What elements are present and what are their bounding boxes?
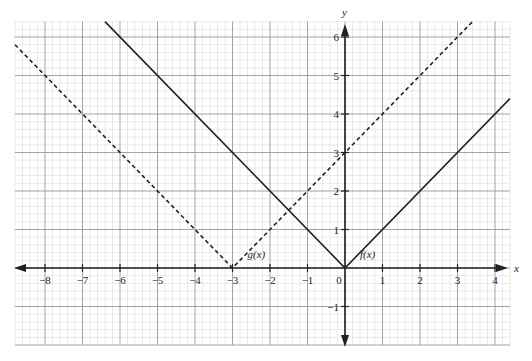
function-label: g(x) bbox=[248, 248, 266, 261]
function-label: f(x) bbox=[360, 248, 376, 261]
x-tick-label: −1 bbox=[302, 274, 314, 286]
y-tick-label: 1 bbox=[334, 224, 340, 236]
y-tick-label: −1 bbox=[327, 301, 339, 313]
y-tick-label: 6 bbox=[334, 31, 340, 43]
x-tick-label: −7 bbox=[77, 274, 89, 286]
tick-labels: −8−7−6−5−4−3−2−101234−1123456 bbox=[39, 31, 498, 313]
x-tick-label: 4 bbox=[492, 274, 498, 286]
y-tick-label: 5 bbox=[334, 70, 340, 82]
x-tick-label: 1 bbox=[380, 274, 386, 286]
y-tick-label: 4 bbox=[334, 108, 340, 120]
y-tick-label: 2 bbox=[334, 185, 340, 197]
x-tick-label: −8 bbox=[39, 274, 51, 286]
y-tick-label: 3 bbox=[334, 147, 340, 159]
x-tick-label: −5 bbox=[152, 274, 164, 286]
x-axis-label: x bbox=[513, 262, 519, 274]
x-tick-label: 3 bbox=[455, 274, 461, 286]
x-tick-label: −6 bbox=[114, 274, 126, 286]
x-tick-label: −4 bbox=[189, 274, 201, 286]
x-axis-arrow-left-icon bbox=[14, 264, 26, 272]
x-tick-label: 0 bbox=[336, 274, 342, 286]
x-tick-label: −3 bbox=[227, 274, 239, 286]
y-axis-label: y bbox=[341, 6, 347, 18]
y-axis-arrow-up-icon bbox=[341, 24, 349, 36]
x-tick-label: 2 bbox=[417, 274, 423, 286]
chart: −8−7−6−5−4−3−2−101234−1123456 x y g(x)f(… bbox=[0, 0, 532, 361]
function-labels: g(x)f(x) bbox=[248, 248, 376, 261]
x-axis-arrow-right-icon bbox=[496, 264, 508, 272]
x-tick-label: −2 bbox=[264, 274, 276, 286]
